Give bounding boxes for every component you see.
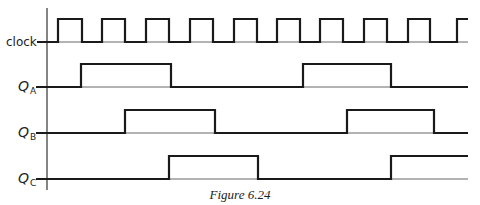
signal-label-clock: clock — [6, 35, 37, 49]
signal-label-qc: QC — [18, 170, 36, 188]
waveform-qb — [47, 110, 468, 133]
waveform-qa — [47, 64, 468, 87]
figure-caption: Figure 6.24 — [0, 187, 480, 203]
signal-qc: QC — [18, 156, 468, 188]
signal-label-qb: QB — [18, 124, 36, 142]
waveform-clock — [47, 19, 468, 42]
signal-label-qa: QA — [18, 78, 37, 96]
signal-clock: clock — [6, 19, 468, 49]
timing-diagram: clock QA QB QC — [0, 0, 480, 205]
signal-qb: QB — [18, 110, 468, 142]
waveform-qc — [47, 156, 468, 179]
signal-qa: QA — [18, 64, 468, 96]
